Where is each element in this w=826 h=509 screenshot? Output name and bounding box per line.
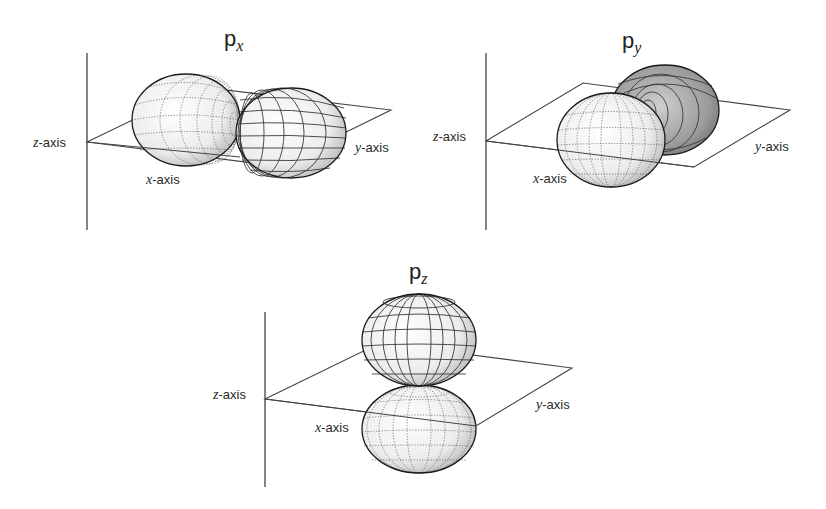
x-axis-label: x-axis [314, 420, 349, 435]
panel-title: px [224, 26, 243, 54]
panel-title: py [622, 28, 642, 57]
panel-px: px [32, 26, 391, 230]
orbital-lobe-positive [362, 294, 476, 386]
panel-pz: pz [212, 259, 572, 487]
z-axis-label: z-axis [32, 135, 66, 150]
z-axis-label: z-axis [432, 129, 466, 144]
orbital-lobe-negative [362, 385, 476, 473]
panel-py: py [432, 28, 790, 230]
panel-title: pz [409, 259, 428, 287]
y-axis-label: y-axis [753, 139, 789, 154]
y-axis-label: y-axis [534, 397, 570, 412]
y-axis-label: y-axis [353, 140, 389, 155]
orbital-lobe-positive [557, 93, 665, 187]
x-axis-label: x-axis [145, 172, 180, 187]
orbital-lobe-positive [236, 88, 346, 178]
orbital-diagram: px [0, 0, 826, 509]
x-axis-label: x-axis [532, 171, 567, 186]
z-axis-label: z-axis [212, 387, 246, 402]
